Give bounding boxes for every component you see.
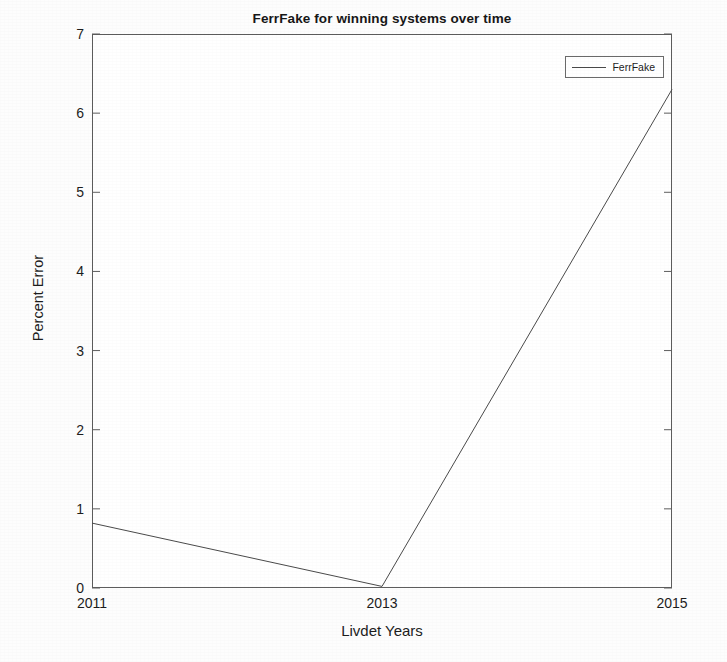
chart-title: FerrFake for winning systems over time <box>92 11 672 26</box>
plot-area: 01234567 201120132015 FerrFake <box>92 34 672 588</box>
y-tick-label: 0 <box>76 580 84 596</box>
y-tick-label: 1 <box>76 501 84 517</box>
chart-legend[interactable]: FerrFake <box>565 56 664 78</box>
y-tick-label: 4 <box>76 263 84 279</box>
x-axis-label: Livdet Years <box>92 622 672 639</box>
series-layer <box>92 34 672 588</box>
axis-ticks <box>92 34 672 588</box>
chart-figure: FerrFake for winning systems over time P… <box>0 0 727 662</box>
y-tick-label: 6 <box>76 105 84 121</box>
y-tick-label: 7 <box>76 26 84 42</box>
x-tick-label: 2015 <box>656 595 687 611</box>
y-axis-label: Percent Error <box>30 198 46 398</box>
legend-line-swatch <box>572 67 606 68</box>
y-tick-label: 3 <box>76 343 84 359</box>
x-tick-label: 2013 <box>366 595 397 611</box>
line-series-ferrfake <box>92 89 672 586</box>
y-tick-label: 5 <box>76 184 84 200</box>
y-tick-label: 2 <box>76 422 84 438</box>
x-tick-label: 2011 <box>77 595 107 611</box>
legend-label-ferrfake: FerrFake <box>612 61 655 73</box>
